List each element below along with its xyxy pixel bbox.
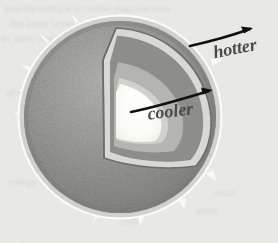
wedge-left-cut-edge	[103, 60, 104, 158]
ghost-line: zone	[196, 204, 217, 216]
figure-canvas: and the surface is cooler than the core …	[0, 0, 278, 243]
ghost-line: and the surface is cooler than the core	[4, 2, 171, 14]
ghost-line: solar	[214, 186, 236, 198]
